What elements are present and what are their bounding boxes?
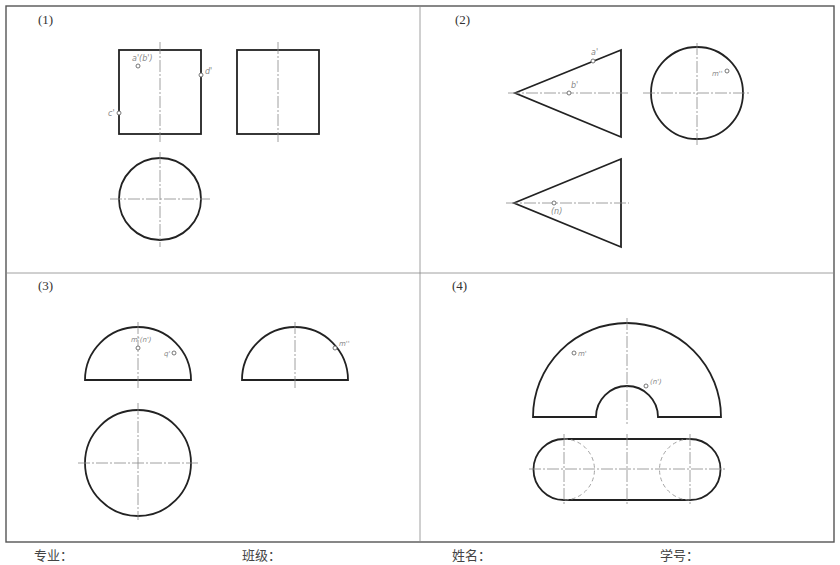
point-marker xyxy=(199,73,203,77)
point-label: m'' xyxy=(712,70,723,78)
point-marker xyxy=(591,59,595,63)
name-field-label: 姓名： xyxy=(452,545,491,564)
class-field-label: 班级： xyxy=(242,545,281,564)
panel-label: (2) xyxy=(455,12,470,28)
point-marker xyxy=(172,351,176,355)
student-id-field-label: 学号： xyxy=(660,545,699,564)
panel-label: (4) xyxy=(452,278,467,294)
exercise-sheet: .ol { stroke: #222; stroke-width: 1.8; f… xyxy=(0,0,840,565)
point-label: a' xyxy=(591,48,598,57)
point-marker xyxy=(725,69,729,73)
point-label: m'(n') xyxy=(131,336,152,344)
point-marker xyxy=(644,384,648,388)
panel-label: (1) xyxy=(38,12,53,28)
major-field-label: 专业： xyxy=(34,545,73,564)
drawing-canvas: .ol { stroke: #222; stroke-width: 1.8; f… xyxy=(0,0,840,565)
point-marker xyxy=(136,64,140,68)
panel-label: (3) xyxy=(38,278,53,294)
point-marker xyxy=(333,346,337,350)
panel-2-cone: a' b' m'' (n) xyxy=(506,43,751,247)
panel-3-hemisphere: m'(n') q' m'' xyxy=(78,322,350,520)
point-marker xyxy=(572,351,576,355)
point-label: b' xyxy=(571,81,578,90)
point-label: d' xyxy=(205,67,212,76)
panel-4-half-ring: m' (n') xyxy=(529,318,725,504)
point-label: m'' xyxy=(339,340,350,348)
point-label: m' xyxy=(578,350,587,358)
point-label: a'(b') xyxy=(132,54,153,63)
panel-1-cylinder: a'(b') d' c' xyxy=(108,42,319,247)
point-marker xyxy=(552,201,556,205)
point-marker xyxy=(117,111,121,115)
point-label: (n) xyxy=(551,207,562,216)
hidden-arc xyxy=(659,439,690,500)
point-label: c' xyxy=(108,109,115,118)
point-label: q' xyxy=(164,350,170,358)
point-marker xyxy=(136,346,140,350)
hidden-arc xyxy=(564,439,594,500)
point-label: (n') xyxy=(650,378,662,386)
point-marker xyxy=(567,91,571,95)
